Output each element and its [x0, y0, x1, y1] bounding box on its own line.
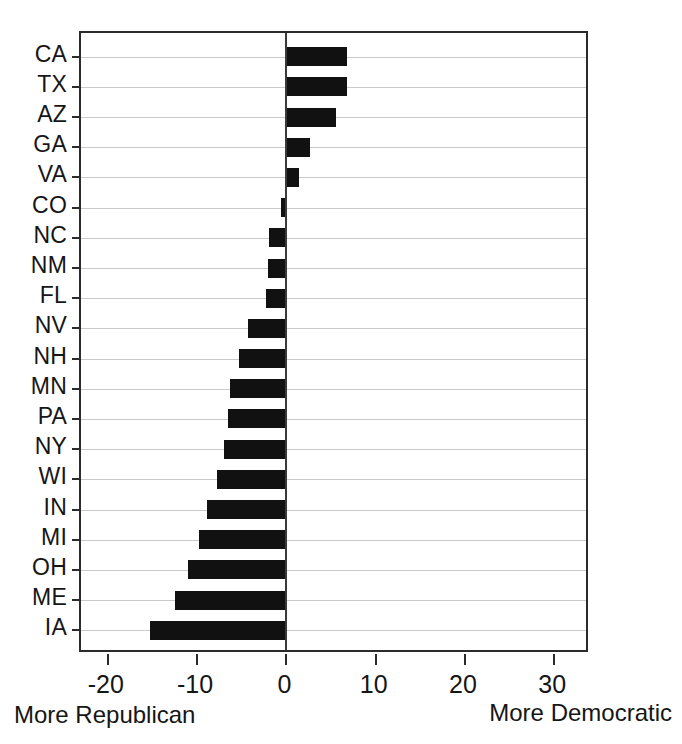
- gridline: [81, 177, 586, 178]
- x-tick: [375, 654, 377, 665]
- bar-IN: [207, 500, 286, 519]
- bar-WI: [217, 470, 287, 489]
- bar-PA: [228, 409, 286, 428]
- y-tick: [72, 569, 81, 571]
- y-tick: [72, 207, 81, 209]
- y-tick: [72, 56, 81, 58]
- y-tick: [72, 146, 81, 148]
- bar-MI: [199, 530, 287, 549]
- bar-NY: [224, 440, 287, 459]
- gridline: [81, 449, 586, 450]
- gridline: [81, 570, 586, 571]
- y-tick: [72, 478, 81, 480]
- y-tick-label-CO: CO: [32, 194, 67, 217]
- y-tick-label-CA: CA: [35, 43, 67, 66]
- bar-CA: [286, 47, 347, 66]
- x-tick: [553, 654, 555, 665]
- gridline: [81, 419, 586, 420]
- y-tick-label-IA: IA: [45, 616, 67, 639]
- bar-ME: [175, 591, 287, 610]
- gridline: [81, 208, 586, 209]
- x-tick: [107, 654, 109, 665]
- y-tick-label-FL: FL: [40, 284, 67, 307]
- x-tick-label--20: -20: [88, 672, 124, 697]
- gridline: [81, 600, 586, 601]
- gridline: [81, 510, 586, 511]
- x-tick-label-10: 10: [360, 672, 388, 697]
- y-tick-label-NY: NY: [35, 435, 67, 458]
- plot-area: [79, 31, 588, 652]
- bar-NV: [248, 319, 286, 338]
- y-tick: [72, 267, 81, 269]
- y-tick-label-MI: MI: [41, 526, 67, 549]
- bar-AZ: [286, 108, 336, 127]
- y-tick-label-IN: IN: [44, 496, 67, 519]
- gridline: [81, 238, 586, 239]
- x-tick-label-0: 0: [277, 672, 291, 697]
- y-tick: [72, 418, 81, 420]
- y-tick: [72, 116, 81, 118]
- bar-NH: [239, 349, 286, 368]
- zero-reference-line: [285, 33, 287, 650]
- y-tick-label-ME: ME: [32, 586, 67, 609]
- bar-FL: [266, 289, 287, 308]
- gridline: [81, 147, 586, 148]
- x-tick: [464, 654, 466, 665]
- gridline: [81, 298, 586, 299]
- y-tick-label-NH: NH: [33, 345, 67, 368]
- y-tick: [72, 388, 81, 390]
- y-tick-label-VA: VA: [38, 163, 67, 186]
- y-tick: [72, 237, 81, 239]
- y-tick-label-WI: WI: [39, 465, 68, 488]
- x-tick-label-30: 30: [538, 672, 566, 697]
- y-tick-label-MN: MN: [31, 375, 67, 398]
- bar-IA: [150, 621, 287, 640]
- y-tick: [72, 86, 81, 88]
- gridline: [81, 389, 586, 390]
- bar-NM: [268, 259, 287, 278]
- y-tick: [72, 358, 81, 360]
- gridline: [81, 328, 586, 329]
- bar-NC: [269, 228, 286, 247]
- y-tick-label-TX: TX: [37, 73, 67, 96]
- bar-TX: [286, 77, 347, 96]
- y-tick: [72, 327, 81, 329]
- x-tick-label-20: 20: [449, 672, 477, 697]
- left-axis-caption: More Republican: [14, 702, 195, 728]
- y-tick: [72, 448, 81, 450]
- chart-figure: CATXAZGAVACONCNMFLNVNHMNPANYWIINMIOHMEIA…: [0, 0, 682, 744]
- gridline: [81, 479, 586, 480]
- y-tick-label-AZ: AZ: [37, 103, 67, 126]
- y-tick: [72, 629, 81, 631]
- bar-VA: [286, 168, 299, 187]
- y-tick: [72, 297, 81, 299]
- right-axis-caption: More Democratic: [489, 700, 672, 726]
- y-tick-label-OH: OH: [32, 556, 67, 579]
- x-tick: [285, 654, 287, 665]
- gridline: [81, 540, 586, 541]
- bar-GA: [286, 138, 310, 157]
- y-tick-label-PA: PA: [38, 405, 67, 428]
- y-tick: [72, 539, 81, 541]
- y-tick: [72, 176, 81, 178]
- y-tick: [72, 599, 81, 601]
- bar-MN: [230, 379, 286, 398]
- y-tick-label-NC: NC: [33, 224, 67, 247]
- gridline: [81, 359, 586, 360]
- y-tick-label-GA: GA: [33, 133, 67, 156]
- x-tick-label--10: -10: [177, 672, 213, 697]
- y-tick: [72, 509, 81, 511]
- x-tick: [196, 654, 198, 665]
- bar-OH: [188, 560, 286, 579]
- y-tick-label-NV: NV: [35, 314, 67, 337]
- gridline: [81, 268, 586, 269]
- y-tick-label-NM: NM: [31, 254, 67, 277]
